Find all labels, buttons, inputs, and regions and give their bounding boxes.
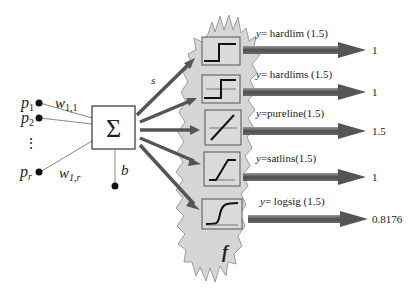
- svg-text:0.8176: 0.8176: [372, 213, 403, 225]
- svg-text:1.5: 1.5: [372, 125, 386, 137]
- hardlims-box: [202, 75, 240, 103]
- output-values: 1 1 1.5 1 0.8176: [372, 44, 403, 225]
- logsig-box: [202, 199, 242, 229]
- hardlim-box: [202, 37, 240, 65]
- svg-text:1: 1: [372, 171, 378, 183]
- bias-node: [112, 183, 119, 190]
- svg-text:w1,1: w1,1: [55, 95, 78, 113]
- svg-text:y= hardlims (1.5): y= hardlims (1.5): [255, 68, 333, 81]
- svg-text:1: 1: [372, 44, 378, 56]
- input-connections: [40, 103, 92, 172]
- svg-text:y= logsig (1.5): y= logsig (1.5): [259, 195, 325, 208]
- net-input-label: s: [151, 74, 155, 86]
- svg-text:y= hardlim (1.5): y= hardlim (1.5): [255, 27, 328, 40]
- weight-labels: w1,1 w1,r: [55, 95, 81, 183]
- satlins-box: [204, 152, 240, 186]
- bias-label: b: [121, 162, 129, 178]
- neuron-diagram: Σ b p1 p2 ⋮ pr w1,1 w1,r s f y= hardlim …: [0, 0, 418, 293]
- svg-text:1: 1: [372, 86, 378, 98]
- svg-text:⋮: ⋮: [24, 136, 38, 151]
- svg-text:y=pureline(1.5): y=pureline(1.5): [255, 107, 325, 120]
- svg-text:pr: pr: [19, 163, 32, 182]
- sigma-symbol: Σ: [106, 114, 121, 143]
- svg-text:w1,r: w1,r: [59, 165, 81, 183]
- svg-text:y=satlins(1.5): y=satlins(1.5): [255, 152, 317, 165]
- input-labels: p1 p2 ⋮ pr: [19, 94, 38, 182]
- purelin-box: [205, 110, 241, 145]
